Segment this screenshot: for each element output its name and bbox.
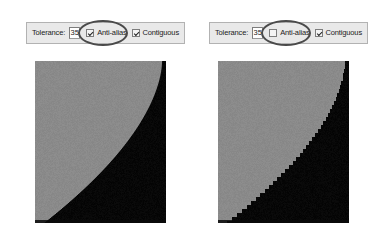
tool-options-bar: Tolerance: 35 Anti-alias Contiguous (209, 22, 368, 44)
edge-preview-canvas (35, 61, 166, 223)
antialias-checkbox-group[interactable]: Anti-alias (86, 29, 126, 37)
contiguous-checkbox[interactable] (132, 29, 140, 37)
antialias-checkbox[interactable] (86, 29, 94, 37)
antialias-checkbox[interactable] (269, 29, 277, 37)
tolerance-input[interactable]: 35 (252, 27, 263, 39)
comparison-panel-right: Tolerance: 35 Anti-alias Contiguous (191, 0, 383, 239)
contiguous-checkbox-group[interactable]: Contiguous (315, 29, 362, 37)
tolerance-label: Tolerance: (215, 29, 248, 37)
contiguous-checkbox[interactable] (315, 29, 323, 37)
contiguous-label: Contiguous (143, 29, 179, 37)
edge-preview-canvas (218, 61, 349, 223)
aliased-edge-preview (218, 61, 349, 223)
tool-options-bar: Tolerance: 35 Anti-alias Contiguous (26, 22, 185, 44)
anti-aliased-edge-preview (35, 61, 166, 223)
antialias-label: Anti-alias (97, 29, 126, 37)
antialias-checkbox-group[interactable]: Anti-alias (269, 29, 309, 37)
antialias-label: Anti-alias (280, 29, 309, 37)
comparison-panel-left: Tolerance: 35 Anti-alias Contiguous (0, 0, 191, 239)
contiguous-checkbox-group[interactable]: Contiguous (132, 29, 179, 37)
tolerance-input[interactable]: 35 (69, 27, 80, 39)
tolerance-label: Tolerance: (32, 29, 65, 37)
contiguous-label: Contiguous (326, 29, 362, 37)
